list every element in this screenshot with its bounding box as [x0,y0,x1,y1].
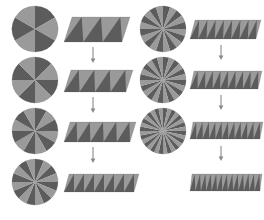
rearranged-strip [190,122,263,139]
sector-circle [12,6,58,52]
figure-root: Circle divided into sectors rearranged i… [0,0,264,220]
sector-circle [12,159,58,205]
sector-circle [140,57,186,103]
rearranged-strip [64,17,130,42]
sector-circle [140,6,186,52]
rearranged-strip [64,174,139,192]
rearranged-strip [64,70,133,92]
rearranged-strip [64,122,136,142]
sector-circle [140,108,186,154]
rearranged-strip [190,174,262,191]
rearranged-strip [190,71,262,89]
sector-rearrangement-figure [0,0,264,220]
stage-40-sectors [190,174,262,191]
sector-circle [12,57,58,103]
rearranged-strip [190,20,261,39]
sector-circle [12,108,58,154]
